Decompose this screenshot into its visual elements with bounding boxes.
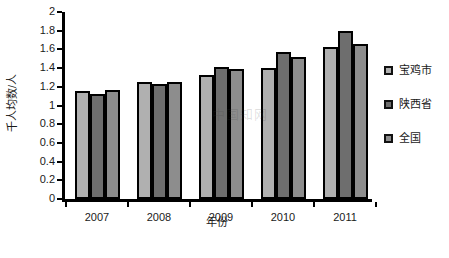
y-axis-tick-label: 1: [21, 100, 55, 111]
bar-2011-宝鸡市: [323, 47, 338, 199]
plot-area: 00.20.40.60.811.21.41.61.82 200720082009…: [62, 12, 372, 202]
y-axis-title: 千人均数/人: [5, 53, 19, 153]
bar-2009-全国: [229, 69, 244, 199]
x-axis-tick: [189, 202, 191, 207]
bar-2008-陕西省: [152, 84, 167, 199]
y-axis-tick: [57, 161, 62, 163]
x-axis-tick: [127, 202, 129, 207]
bar-2010-陕西省: [276, 52, 291, 199]
chart-legend: 宝鸡市陕西省全国: [384, 64, 449, 166]
y-axis-tick: [57, 123, 62, 125]
y-axis-tick-label: 0: [21, 193, 55, 204]
y-axis-tick: [57, 198, 62, 200]
y-axis-tick-label: 0.2: [21, 174, 55, 185]
bar-2009-宝鸡市: [199, 75, 214, 199]
bar-2008-全国: [167, 82, 182, 199]
y-axis-tick-label: 1.6: [21, 43, 55, 54]
y-axis-tick-label: 1.8: [21, 25, 55, 36]
bar-2010-全国: [291, 57, 306, 199]
x-axis-tick: [251, 202, 253, 207]
x-axis-title: 年份: [62, 216, 372, 229]
legend-item-2[interactable]: 陕西省: [384, 98, 449, 110]
y-axis-tick: [57, 11, 62, 13]
legend-swatch-icon: [384, 100, 393, 109]
y-axis-line: [62, 12, 65, 202]
y-axis-tick: [57, 105, 62, 107]
y-axis-tick: [57, 142, 62, 144]
x-axis-tick: [375, 202, 377, 207]
x-axis-tick: [65, 202, 67, 207]
bar-2007-陕西省: [90, 94, 105, 199]
y-axis-tick-label: 0.4: [21, 156, 55, 167]
y-axis-tick: [57, 30, 62, 32]
y-axis-tick: [57, 179, 62, 181]
bar-2007-宝鸡市: [75, 91, 90, 199]
x-axis-line: [62, 199, 372, 202]
bar-2010-宝鸡市: [261, 68, 276, 199]
legend-item-label: 宝鸡市: [399, 64, 432, 76]
y-axis-tick: [57, 48, 62, 50]
legend-item-3[interactable]: 全国: [384, 132, 449, 144]
y-axis-tick-label: 0.8: [21, 118, 55, 129]
bar-2008-宝鸡市: [137, 82, 152, 199]
y-axis-tick: [57, 67, 62, 69]
legend-swatch-icon: [384, 66, 393, 75]
y-axis-tick-label: 1.2: [21, 81, 55, 92]
x-axis-tick: [313, 202, 315, 207]
bar-2009-陕西省: [214, 67, 229, 199]
bar-2011-陕西省: [338, 31, 353, 199]
y-axis-tick-label: 2: [21, 6, 55, 17]
y-axis-tick: [57, 86, 62, 88]
legend-item-label: 陕西省: [399, 98, 432, 110]
y-axis-tick-label: 1.4: [21, 62, 55, 73]
legend-item-1[interactable]: 宝鸡市: [384, 64, 449, 76]
legend-swatch-icon: [384, 134, 393, 143]
bar-2007-全国: [105, 90, 120, 199]
y-axis-tick-label: 0.6: [21, 137, 55, 148]
bar-chart: 千人均数/人 00.20.40.60.811.21.41.61.82 20072…: [0, 0, 449, 258]
legend-item-label: 全国: [399, 132, 421, 144]
bar-2011-全国: [353, 44, 368, 199]
